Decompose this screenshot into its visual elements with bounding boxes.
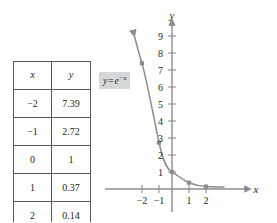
table-row: −2 7.39 <box>14 90 91 118</box>
cell-x: 1 <box>14 174 52 202</box>
table-row: −1 2.72 <box>14 118 91 146</box>
y-tick-label-2: 2 <box>158 150 163 161</box>
cell-x: −1 <box>14 118 52 146</box>
y-tick-label-4: 4 <box>158 116 163 127</box>
equation-callout: y=e−x <box>99 72 130 89</box>
y-tick-label-6: 6 <box>158 82 163 93</box>
equation-exponent: −x <box>119 74 127 81</box>
x-axis <box>105 185 246 193</box>
data-point-1 <box>187 181 191 185</box>
cell-x: 2 <box>14 202 52 223</box>
equation-operator: = <box>107 76 114 86</box>
table-body: −2 7.39 −1 2.72 0 1 1 0.37 2 0.14 <box>14 90 91 223</box>
table-row: 0 1 <box>14 146 91 174</box>
cell-x: 0 <box>14 146 52 174</box>
cell-y: 0.14 <box>52 202 91 223</box>
exponential-decay-figure: x y −2 7.39 −1 2.72 0 1 1 0.37 2 <box>0 0 277 222</box>
cell-y: 0.37 <box>52 174 91 202</box>
y-axis-label: y <box>169 9 175 21</box>
data-point--2 <box>140 61 144 65</box>
cell-x: −2 <box>14 90 52 118</box>
y-tick-label-7: 7 <box>158 65 163 76</box>
y-tick-label-9: 9 <box>158 31 163 42</box>
y-tick-label-1: 1 <box>158 167 163 178</box>
values-table: x y −2 7.39 −1 2.72 0 1 1 0.37 2 <box>13 61 91 222</box>
exponential-curve <box>133 32 224 188</box>
x-tick-label-1: 1 <box>187 195 192 206</box>
table-row: 1 0.37 <box>14 174 91 202</box>
y-tick-label-5: 5 <box>158 99 163 110</box>
column-header-y: y <box>52 62 91 90</box>
y-tick-label-3: 3 <box>158 133 163 144</box>
x-tick-label--2: −2 <box>137 195 148 206</box>
table-row: 2 0.14 <box>14 202 91 223</box>
x-tick-label--1: −1 <box>154 195 165 206</box>
y-axis <box>168 24 176 212</box>
data-point-markers <box>140 61 208 189</box>
coordinate-plot: −2 −1 1 2 1 2 3 4 5 6 7 8 9 x y <box>100 0 277 222</box>
column-header-x: x <box>14 62 52 90</box>
cell-y: 1 <box>52 146 91 174</box>
cell-y: 2.72 <box>52 118 91 146</box>
x-axis-label: x <box>253 183 259 195</box>
table-header-row: x y <box>14 62 91 90</box>
data-point-2 <box>204 185 208 189</box>
cell-y: 7.39 <box>52 90 91 118</box>
x-tick-label-2: 2 <box>204 195 209 206</box>
data-point-0 <box>170 170 174 174</box>
table-head: x y <box>14 62 91 90</box>
y-tick-label-8: 8 <box>158 48 163 59</box>
